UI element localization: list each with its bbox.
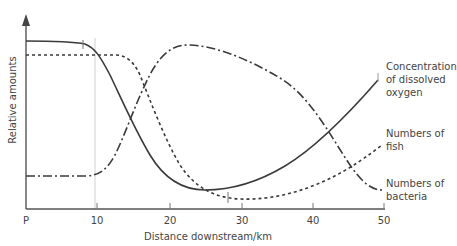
x-tick-label-10: 10	[91, 215, 104, 226]
x-tick-label-30: 30	[236, 215, 249, 226]
y-axis-title: Relative amounts	[7, 56, 18, 143]
x-axis-title: Distance downstream/km	[144, 231, 272, 242]
river-pollution-chart: P 10 20 30 40 50 Distance downstream/km …	[0, 0, 457, 246]
label-bacteria: Numbers of bacteria	[386, 177, 444, 203]
series-bacteria-line	[26, 45, 382, 190]
label-oxygen: Concentration of dissolved oxygen	[386, 60, 457, 99]
x-tick-label-p: P	[23, 215, 29, 226]
y-axis-arrow-icon	[22, 14, 30, 26]
series-oxygen-line	[26, 41, 378, 190]
x-tick-label-40: 40	[307, 215, 320, 226]
x-tick-label-50: 50	[378, 215, 391, 226]
x-tick-label-20: 20	[164, 215, 177, 226]
series-fish-line	[26, 55, 382, 199]
label-fish: Numbers of fish	[386, 127, 444, 153]
